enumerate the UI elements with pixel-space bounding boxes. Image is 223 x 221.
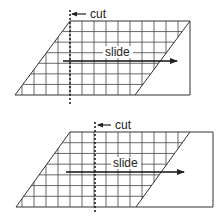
panel-after: cut slide <box>16 118 213 214</box>
grid-region <box>22 132 182 207</box>
cut-label: cut <box>115 118 132 132</box>
panel-before: cut slide <box>15 7 190 104</box>
grid-region <box>22 21 182 95</box>
cut-label: cut <box>90 7 107 21</box>
slide-label: slide <box>105 45 130 59</box>
diagram-canvas: cut slide cut slide <box>0 0 223 221</box>
slide-label: slide <box>113 156 138 170</box>
shape-outline <box>15 21 190 95</box>
parallelogram-cut-and-slide-diagram: cut slide cut slide <box>0 0 223 221</box>
